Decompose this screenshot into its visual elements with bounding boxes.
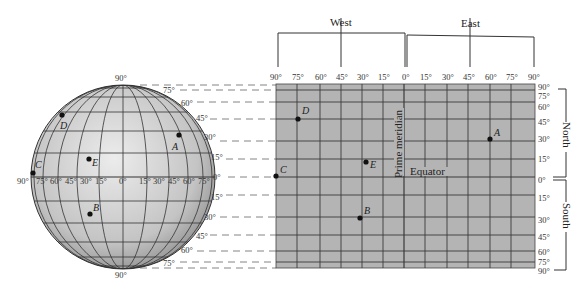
hemisphere-brackets	[278, 18, 534, 67]
map-longitude-labels: 90° 75° 60° 45° 30° 15° 0° 15° 30° 45° 6…	[270, 72, 540, 82]
svg-text:75°: 75°	[292, 72, 304, 82]
svg-text:30°: 30°	[204, 132, 216, 142]
svg-text:45°: 45°	[168, 176, 180, 186]
svg-text:E: E	[91, 157, 98, 168]
globe-north-pole-label: 90°	[115, 73, 127, 83]
map-area	[276, 84, 535, 268]
svg-text:15°: 15°	[538, 193, 550, 203]
svg-text:A: A	[493, 127, 501, 138]
svg-text:45°: 45°	[336, 72, 348, 82]
globe-point-e	[86, 156, 91, 161]
svg-text:15°: 15°	[378, 72, 390, 82]
svg-text:15°: 15°	[211, 152, 223, 162]
svg-text:60°: 60°	[50, 176, 62, 186]
svg-text:90°: 90°	[538, 266, 550, 276]
svg-text:0°: 0°	[213, 172, 221, 182]
svg-text:45°: 45°	[196, 113, 208, 123]
svg-text:75°: 75°	[36, 176, 48, 186]
svg-text:45°: 45°	[463, 72, 475, 82]
latitude-longitude-diagram: 90° 90° 90° 75° 60° 45° 30° 15° 0° 15° 3…	[0, 0, 587, 291]
west-header: West	[330, 16, 352, 28]
globe-point-c	[30, 170, 35, 175]
svg-text:E: E	[369, 159, 376, 170]
svg-text:75°: 75°	[198, 176, 210, 186]
svg-text:60°: 60°	[181, 245, 193, 255]
map-point-d	[295, 116, 300, 121]
north-label: North	[561, 122, 573, 148]
svg-text:60°: 60°	[538, 247, 550, 257]
globe-south-pole-label: 90°	[115, 270, 127, 280]
south-label: South	[561, 203, 573, 229]
svg-text:A: A	[171, 141, 179, 152]
globe-point-d	[59, 112, 64, 117]
svg-text:30°: 30°	[357, 72, 369, 82]
svg-text:D: D	[59, 120, 68, 131]
equator-label: Equator	[410, 165, 445, 177]
svg-text:30°: 30°	[442, 72, 454, 82]
globe-point-b	[87, 211, 92, 216]
map-point-b	[357, 215, 362, 220]
svg-text:D: D	[301, 105, 310, 116]
svg-text:75°: 75°	[538, 91, 550, 101]
svg-text:30°: 30°	[538, 134, 550, 144]
svg-text:75°: 75°	[163, 258, 175, 268]
svg-text:15°: 15°	[95, 176, 107, 186]
svg-text:15°: 15°	[538, 154, 550, 164]
svg-text:60°: 60°	[538, 102, 550, 112]
svg-text:15°: 15°	[420, 72, 432, 82]
svg-text:B: B	[364, 205, 370, 216]
svg-text:30°: 30°	[204, 212, 216, 222]
svg-text:C: C	[280, 164, 287, 175]
map-point-a	[487, 136, 492, 141]
svg-text:30°: 30°	[153, 176, 165, 186]
svg-text:30°: 30°	[538, 215, 550, 225]
svg-text:45°: 45°	[538, 232, 550, 242]
svg-text:60°: 60°	[315, 72, 327, 82]
svg-text:45°: 45°	[538, 117, 550, 127]
svg-text:60°: 60°	[485, 72, 497, 82]
svg-text:90°: 90°	[270, 72, 282, 82]
svg-text:15°: 15°	[211, 192, 223, 202]
east-header: East	[461, 17, 480, 29]
svg-text:0°: 0°	[402, 72, 410, 82]
svg-text:0°: 0°	[119, 176, 127, 186]
svg-text:0°: 0°	[538, 175, 546, 185]
svg-text:30°: 30°	[80, 176, 92, 186]
globe-point-a	[176, 132, 181, 137]
prime-meridian-label: Prime meridian	[392, 109, 404, 178]
svg-text:15°: 15°	[139, 176, 151, 186]
svg-text:60°: 60°	[183, 176, 195, 186]
svg-text:60°: 60°	[181, 98, 193, 108]
svg-text:45°: 45°	[65, 176, 77, 186]
map-latitude-labels: 90° 75° 60° 45° 30° 15° 0° 15° 30° 45° 6…	[538, 82, 550, 276]
map-point-e	[363, 159, 368, 164]
svg-text:C: C	[35, 159, 42, 170]
flat-map: West East 90° 75° 60° 45° 30° 15° 0° 15°…	[270, 16, 573, 276]
svg-text:75°: 75°	[506, 72, 518, 82]
svg-text:90°: 90°	[528, 72, 540, 82]
map-point-c	[273, 173, 278, 178]
svg-text:45°: 45°	[196, 231, 208, 241]
north-south-brackets	[553, 89, 566, 270]
svg-text:75°: 75°	[163, 85, 175, 95]
svg-text:B: B	[93, 202, 99, 213]
globe: 90° 90° 90° 75° 60° 45° 30° 15° 0° 15° 3…	[17, 73, 276, 280]
svg-text:90°: 90°	[17, 176, 29, 186]
